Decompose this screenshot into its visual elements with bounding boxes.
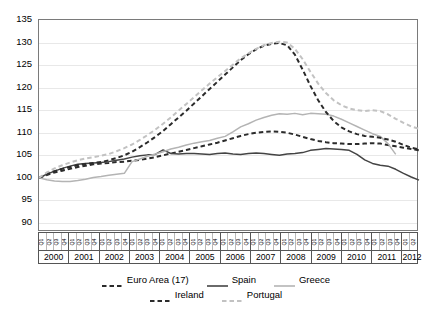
- x-tick-quarter: Q4: [122, 233, 129, 250]
- quarter-group: Q1Q2Q3Q4: [371, 233, 401, 250]
- x-tick-quarter: Q4: [395, 233, 402, 250]
- x-tick-quarter: Q1: [160, 233, 168, 250]
- x-tick-quarter-text: Q2: [380, 238, 385, 245]
- x-tick-quarter: Q2: [349, 233, 357, 250]
- x-tick-quarter-text: Q3: [115, 238, 120, 245]
- y-tick-label: 95: [21, 195, 32, 205]
- legend-item[interactable]: Ireland: [150, 290, 204, 300]
- x-tick-year: 2007: [250, 251, 280, 263]
- x-axis-quarter-labels: Q1Q2Q3Q4Q1Q2Q3Q4Q1Q2Q3Q4Q1Q2Q3Q4Q1Q2Q3Q4…: [38, 232, 418, 251]
- x-tick-quarter: Q3: [84, 233, 92, 250]
- x-tick-quarter-text: Q2: [199, 238, 204, 245]
- x-tick-quarter: Q3: [54, 233, 62, 250]
- x-tick-quarter: Q2: [289, 233, 297, 250]
- x-tick-quarter-text: Q4: [335, 238, 340, 245]
- series-line: [39, 131, 419, 177]
- x-tick-quarter-text: Q4: [305, 238, 310, 245]
- x-tick-quarter: Q2: [47, 233, 55, 250]
- x-tick-quarter-text: Q2: [108, 238, 113, 245]
- quarter-group: Q1Q2: [401, 233, 418, 250]
- x-tick-quarter-text: Q2: [290, 238, 295, 245]
- x-tick-quarter-text: Q2: [47, 238, 52, 245]
- x-tick-quarter: Q2: [198, 233, 206, 250]
- chart-root: 9095100105110115120125130135 Q1Q2Q3Q4Q1Q…: [0, 0, 432, 315]
- x-tick-quarter: Q1: [39, 233, 47, 250]
- legend-row-primary: Euro Area (17)SpainGreece: [0, 272, 432, 287]
- legend-label: Spain: [232, 275, 256, 285]
- quarter-group: Q1Q2Q3Q4: [220, 233, 250, 250]
- x-tick-quarter: Q2: [319, 233, 327, 250]
- x-tick-quarter-text: Q3: [55, 238, 60, 245]
- x-tick-year: 2011: [371, 251, 401, 263]
- legend-label: Ireland: [175, 290, 204, 300]
- x-tick-quarter-text: Q2: [229, 238, 234, 245]
- x-tick-quarter-text: Q1: [342, 238, 347, 245]
- x-tick-year: 2005: [189, 251, 219, 263]
- x-tick-quarter-text: Q3: [358, 238, 363, 245]
- x-tick-quarter-text: Q2: [78, 238, 83, 245]
- x-tick-quarter-text: Q3: [85, 238, 90, 245]
- x-tick-quarter: Q4: [213, 233, 220, 250]
- y-tick-label: 130: [16, 37, 32, 47]
- y-tick-label: 100: [16, 172, 32, 182]
- x-tick-quarter-text: Q3: [146, 238, 151, 245]
- legend-item[interactable]: Euro Area (17): [102, 275, 189, 285]
- quarter-group: Q1Q2Q3Q4: [250, 233, 280, 250]
- x-tick-year: 2006: [220, 251, 250, 263]
- x-tick-year: 2001: [68, 251, 98, 263]
- legend-label: Greece: [299, 275, 330, 285]
- series-layer: [39, 20, 419, 232]
- x-tick-quarter-text: Q3: [176, 238, 181, 245]
- x-tick-quarter: Q2: [168, 233, 176, 250]
- x-tick-quarter: Q4: [62, 233, 69, 250]
- x-tick-quarter: Q4: [365, 233, 372, 250]
- y-tick-label: 90: [21, 217, 32, 227]
- x-tick-quarter: Q4: [334, 233, 341, 250]
- quarter-group: Q1Q2Q3Q4: [341, 233, 371, 250]
- legend-item[interactable]: Spain: [207, 275, 256, 285]
- y-axis: 9095100105110115120125130135: [0, 0, 36, 250]
- x-tick-quarter: Q1: [190, 233, 198, 250]
- x-tick-quarter-text: Q3: [388, 238, 393, 245]
- x-tick-quarter: Q1: [402, 233, 410, 250]
- x-tick-quarter-text: Q2: [138, 238, 143, 245]
- x-tick-quarter-text: Q1: [252, 238, 257, 245]
- quarter-group: Q1Q2Q3Q4: [189, 233, 219, 250]
- x-tick-quarter: Q3: [175, 233, 183, 250]
- x-tick-quarter-text: Q4: [214, 238, 219, 245]
- x-tick-quarter: Q1: [281, 233, 289, 250]
- legend-swatch: [222, 291, 243, 299]
- x-tick-quarter: Q3: [266, 233, 274, 250]
- chart-legend: Euro Area (17)SpainGreece IrelandPortuga…: [0, 272, 432, 302]
- series-line: [39, 113, 396, 181]
- x-tick-quarter-text: Q4: [184, 238, 189, 245]
- y-tick-label: 115: [17, 104, 32, 114]
- legend-swatch: [102, 276, 123, 284]
- x-tick-quarter: Q1: [100, 233, 108, 250]
- legend-item[interactable]: Greece: [274, 275, 330, 285]
- x-tick-quarter-text: Q2: [411, 238, 416, 245]
- x-tick-quarter-text: Q3: [327, 238, 332, 245]
- x-tick-quarter: Q1: [372, 233, 380, 250]
- x-tick-quarter: Q3: [387, 233, 395, 250]
- quarter-group: Q1Q2Q3Q4: [159, 233, 189, 250]
- x-tick-year: 2000: [38, 251, 68, 263]
- x-tick-quarter: Q4: [304, 233, 311, 250]
- legend-swatch: [274, 276, 295, 284]
- x-tick-quarter-text: Q3: [267, 238, 272, 245]
- x-tick-quarter: Q4: [92, 233, 99, 250]
- x-tick-quarter-text: Q2: [320, 238, 325, 245]
- legend-item[interactable]: Portugal: [222, 290, 282, 300]
- x-tick-quarter-text: Q4: [274, 238, 279, 245]
- x-tick-quarter-text: Q2: [168, 238, 173, 245]
- quarter-group: Q1Q2Q3Q4: [129, 233, 159, 250]
- x-tick-year: 2010: [341, 251, 371, 263]
- x-tick-quarter-text: Q1: [161, 238, 166, 245]
- x-tick-quarter: Q3: [296, 233, 304, 250]
- x-tick-quarter-text: Q3: [297, 238, 302, 245]
- x-tick-quarter-text: Q1: [40, 238, 45, 245]
- x-tick-quarter: Q3: [145, 233, 153, 250]
- x-tick-quarter: Q1: [130, 233, 138, 250]
- x-axis-year-labels: 2000200120022003200420052006200720082009…: [38, 251, 418, 264]
- x-tick-quarter: Q3: [327, 233, 335, 250]
